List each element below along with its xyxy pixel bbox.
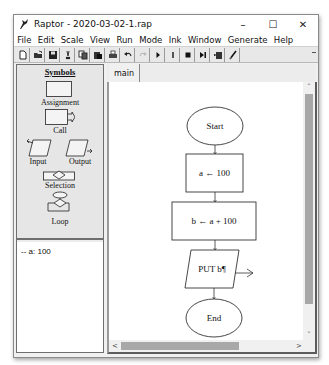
call-symbol-icon[interactable] [45, 109, 75, 125]
new-file-icon [18, 50, 28, 60]
maximize-button[interactable]: ☐ [258, 15, 288, 33]
menu-edit[interactable]: Edit [35, 35, 58, 45]
print-button[interactable] [106, 48, 120, 62]
menu-help[interactable]: Help [271, 35, 297, 45]
toolbar-grip[interactable] [312, 52, 316, 53]
scissors-icon [63, 50, 73, 60]
output-node[interactable]: PUT b¶ [185, 250, 253, 288]
output-symbol-icon[interactable] [65, 139, 93, 157]
toolbar [14, 46, 318, 63]
flowchart-canvas-frame: Start a ← 100 b ← a + 100 [107, 82, 317, 354]
start-node-label: Start [207, 121, 224, 131]
minimize-button[interactable]: – [228, 15, 258, 33]
copy-icon [78, 50, 88, 60]
menu-ink[interactable]: Ink [165, 35, 184, 45]
raptor-app-icon [18, 18, 30, 30]
play-icon [153, 50, 163, 60]
vertical-scroll-thumb[interactable] [305, 94, 313, 304]
step-button[interactable] [196, 48, 210, 62]
assignment-b-label: b ← a + 100 [191, 216, 237, 226]
scroll-up-arrow-icon[interactable]: ˄ [303, 82, 315, 92]
flowchart-canvas[interactable]: Start a ← 100 b ← a + 100 [109, 82, 305, 340]
assignment-node-a[interactable]: a ← 100 [186, 154, 243, 192]
end-node-label: End [207, 313, 222, 323]
symbols-title: Symbols [17, 67, 103, 77]
tab-strip: main [107, 64, 316, 82]
selection-symbol-icon[interactable] [43, 169, 75, 181]
symbol-label-selection: Selection [17, 181, 103, 190]
symbol-label-call: Call [17, 126, 103, 135]
new-file-button[interactable] [16, 48, 30, 62]
menu-view[interactable]: View [87, 35, 114, 45]
menu-run[interactable]: Run [113, 35, 136, 45]
assignment-symbol-icon[interactable] [46, 81, 72, 97]
horizontal-scrollbar[interactable]: < > [109, 340, 305, 352]
step-icon [198, 50, 208, 60]
run-button[interactable] [151, 48, 165, 62]
paste-clipboard-icon [93, 50, 103, 60]
assignment-node-b[interactable]: b ← a + 100 [172, 202, 256, 240]
save-button[interactable] [46, 48, 60, 62]
scroll-down-arrow-icon[interactable]: ˅ [303, 330, 315, 340]
symbol-label-output: Output [63, 157, 97, 166]
menu-scale[interactable]: Scale [57, 35, 86, 45]
raptor-window: Raptor - 2020-03-02-1.rap – ☐ ✕ File Edi… [13, 14, 319, 358]
ink-pen-button[interactable] [226, 48, 240, 62]
scrollbar-corner [303, 340, 315, 352]
stop-icon [183, 50, 193, 60]
pause-icon [168, 50, 178, 60]
assignment-a-label: a ← 100 [199, 168, 230, 178]
copy-button[interactable] [76, 48, 90, 62]
symbol-label-input: Input [23, 157, 53, 166]
cut-button[interactable] [61, 48, 75, 62]
printer-icon [108, 50, 118, 60]
save-run-button[interactable] [211, 48, 225, 62]
menu-generate[interactable]: Generate [225, 35, 271, 45]
stop-button[interactable] [181, 48, 195, 62]
start-node[interactable]: Start [187, 107, 243, 145]
output-node-label: PUT b¶ [198, 264, 226, 274]
redo-icon [138, 50, 148, 60]
flowchart-diagram: Start a ← 100 b ← a + 100 [109, 82, 305, 340]
menu-file[interactable]: File [14, 35, 35, 45]
title-bar: Raptor - 2020-03-02-1.rap – ☐ ✕ [14, 15, 318, 33]
input-symbol-icon[interactable] [27, 139, 53, 157]
paste-button[interactable] [91, 48, 105, 62]
open-folder-icon [33, 50, 43, 60]
redo-button[interactable] [136, 48, 150, 62]
variables-watch-panel: -- a: 100 [17, 242, 103, 352]
menu-mode[interactable]: Mode [136, 35, 166, 45]
vertical-scrollbar[interactable]: ˄ ˅ [303, 82, 315, 340]
window-title: Raptor - 2020-03-02-1.rap [34, 19, 152, 29]
close-button[interactable]: ✕ [288, 15, 318, 33]
end-node[interactable]: End [186, 299, 242, 337]
loop-symbol-icon[interactable] [45, 191, 75, 215]
scroll-left-arrow-icon[interactable]: < [109, 340, 121, 352]
menu-bar: File Edit Scale View Run Mode Ink Window… [14, 33, 318, 46]
tab-main[interactable]: main [109, 64, 140, 82]
left-panel: Symbols Assignment Call Input Output [16, 64, 104, 353]
variable-item: -- a: 100 [21, 247, 51, 256]
symbol-label-assignment: Assignment [17, 98, 103, 107]
undo-icon [123, 50, 133, 60]
horizontal-scroll-thumb[interactable] [121, 342, 239, 350]
pen-icon [228, 50, 238, 60]
pause-button[interactable] [166, 48, 180, 62]
save-run-icon [213, 50, 223, 60]
floppy-disk-icon [48, 50, 58, 60]
open-file-button[interactable] [31, 48, 45, 62]
undo-button[interactable] [121, 48, 135, 62]
symbol-label-loop: Loop [17, 217, 103, 226]
symbols-palette: Symbols Assignment Call Input Output [17, 65, 103, 240]
menu-window[interactable]: Window [185, 35, 225, 45]
